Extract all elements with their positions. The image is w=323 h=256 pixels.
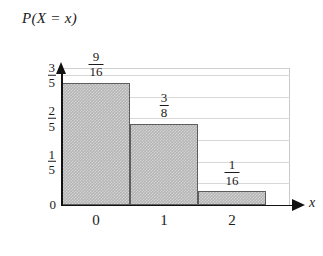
y-tick-label: 15 — [22, 147, 56, 176]
y-tick-label: 0 — [22, 197, 56, 213]
bar-value-label: 116 — [225, 158, 240, 187]
probability-distribution-chart: P(X = x) x 0152535 91638116 012 — [0, 0, 323, 256]
y-axis-line — [61, 72, 63, 206]
y-axis-arrow-icon — [56, 62, 66, 74]
x-axis-arrow-icon — [292, 199, 305, 211]
x-axis-label: x — [309, 195, 315, 211]
x-tick-label: 0 — [92, 212, 100, 229]
bar — [198, 191, 266, 205]
x-axis-line — [61, 205, 294, 207]
plot-area — [62, 68, 290, 205]
plot-right-border — [289, 68, 290, 205]
y-tick-label: 25 — [22, 104, 56, 133]
y-tick-label: 35 — [22, 61, 56, 90]
bar-value-label: 916 — [89, 50, 104, 79]
x-tick-label: 2 — [228, 212, 236, 229]
bar-value-label: 38 — [160, 91, 169, 120]
bar — [130, 124, 198, 205]
x-tick-label: 1 — [160, 212, 168, 229]
bar — [62, 83, 130, 205]
y-tick-labels: 0152535 — [18, 0, 56, 256]
